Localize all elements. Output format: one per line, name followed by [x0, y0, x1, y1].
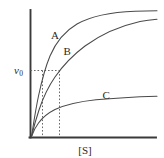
- curve-label-b: B: [64, 45, 71, 57]
- curve-c: [32, 96, 158, 136]
- curve-label-c: C: [103, 89, 110, 101]
- x-axis-label: [S]: [78, 144, 91, 156]
- y-value-label-variable: v: [14, 64, 19, 76]
- plot-svg: A B C v0 [S]: [0, 0, 164, 158]
- y-value-label-subscript: 0: [19, 69, 23, 78]
- y-value-label: v0: [14, 64, 23, 78]
- curve-label-a: A: [51, 29, 59, 41]
- michaelis-menten-figure: A B C v0 [S]: [0, 0, 164, 158]
